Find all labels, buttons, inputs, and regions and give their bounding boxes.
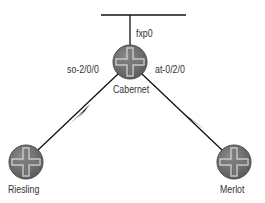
router-label-merlot: Merlot bbox=[220, 184, 244, 195]
network-diagram bbox=[0, 0, 265, 203]
serial-link-merlot bbox=[142, 74, 222, 150]
interface-label-so: so-2/0/0 bbox=[67, 64, 99, 75]
router-label-cabernet: Cabernet bbox=[113, 84, 149, 95]
router-icon-cabernet[interactable] bbox=[113, 45, 147, 79]
router-label-riesling: Riesling bbox=[8, 184, 39, 195]
serial-link-riesling bbox=[38, 74, 118, 150]
router-icon-riesling[interactable] bbox=[9, 145, 43, 179]
router-icon-merlot[interactable] bbox=[217, 145, 251, 179]
interface-label-at: at-0/2/0 bbox=[155, 64, 185, 75]
network-label-fxp0: fxp0 bbox=[136, 28, 153, 39]
